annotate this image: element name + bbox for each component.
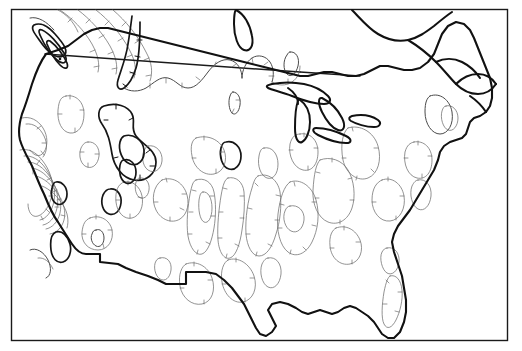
- contour-map-figure: [0, 0, 522, 351]
- map-canvas: [0, 0, 522, 351]
- map-point-marker: [59, 58, 62, 61]
